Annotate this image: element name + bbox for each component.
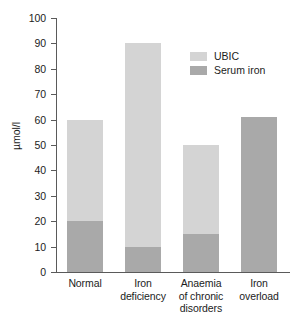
legend-swatch: [190, 52, 207, 61]
bar-segment-serum-iron: [183, 234, 219, 272]
legend-label: Serum iron: [214, 65, 265, 76]
legend-swatch: [190, 66, 207, 75]
legend-item: Serum iron: [190, 63, 265, 77]
x-axis-line: [56, 272, 290, 273]
bar-segment-serum-iron: [67, 221, 103, 272]
chart-legend: UBICSerum iron: [190, 49, 265, 77]
y-axis-tick-label: 60: [12, 115, 46, 125]
y-axis-tick-label: 50: [12, 140, 46, 150]
bar-segment-serum-iron: [125, 247, 161, 272]
bar-iron-overload: [241, 117, 277, 272]
x-axis-label-line: Iron: [223, 277, 295, 290]
x-axis-label-line: disorders: [165, 302, 237, 315]
y-axis-tick-label: 70: [12, 89, 46, 99]
x-axis-label: Ironoverload: [223, 277, 295, 302]
bar-segment-serum-iron: [241, 117, 277, 272]
y-axis-tick-label: 100: [12, 13, 46, 23]
x-axis-label-line: overload: [223, 290, 295, 303]
y-axis-tick-label: 90: [12, 38, 46, 48]
stacked-bar-chart: µmol/l 0102030405060708090100 NormalIron…: [0, 0, 299, 325]
y-axis-tick-label: 40: [12, 165, 46, 175]
bar-segment-ubic: [183, 145, 219, 234]
bar-segment-ubic: [67, 120, 103, 222]
bar-segment-ubic: [125, 43, 161, 246]
y-axis-tick-label: 20: [12, 216, 46, 226]
legend-item: UBIC: [190, 49, 265, 63]
y-axis-tick-label: 10: [12, 242, 46, 252]
y-axis-tick-label: 30: [12, 191, 46, 201]
bar-iron-deficiency: [125, 43, 161, 272]
bar-anaemia-of-chronic-disorders: [183, 145, 219, 272]
y-axis-tick-label: 0: [12, 267, 46, 277]
y-axis-tick: [51, 272, 56, 273]
bar-normal: [67, 120, 103, 272]
y-axis-tick-label: 80: [12, 64, 46, 74]
legend-label: UBIC: [214, 51, 239, 62]
